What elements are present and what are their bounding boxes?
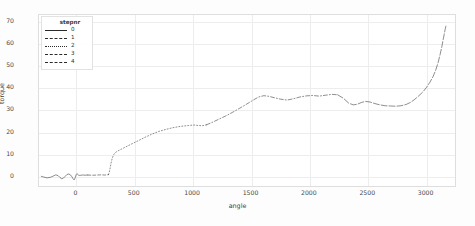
x-axis-label: angle [0,202,475,210]
legend-label: 4 [71,59,75,65]
y-axis-tick-label: 40 [0,84,14,90]
y-axis-tick-label: 50 [0,62,14,68]
legend-label: 2 [71,43,75,49]
y-axis-tick-label: 20 [0,129,14,135]
legend-entry-2[interactable]: 2 [45,42,89,50]
x-axis-tick-label: 500 [104,190,164,196]
x-axis-tick-label: 1500 [221,190,281,196]
y-axis-tick-label: 10 [0,151,14,157]
legend-entry-0[interactable]: 0 [45,26,89,34]
legend-swatch-dashdot [45,51,67,58]
x-axis-tick-label: 0 [45,190,105,196]
legend-label: 3 [71,51,75,57]
plot-area [38,14,456,187]
y-axis-tick-label: 30 [0,106,14,112]
legend[interactable]: stepnr 01234 [41,16,93,70]
legend-entry-1[interactable]: 1 [45,34,89,42]
y-axis-tick-label: 60 [0,40,14,46]
legend-label: 1 [71,35,75,41]
chart-figure: torque angle 010203040506070 05001000150… [0,0,475,226]
y-axis-tick-label: 70 [0,18,14,24]
legend-title: stepnr [51,19,89,25]
series-line-2 [108,125,206,175]
series-line-0 [41,174,87,180]
legend-swatch-solid [45,27,67,34]
x-axis-tick-label: 1000 [162,190,222,196]
legend-swatch-longdash [45,59,67,66]
series-line-1 [88,175,109,176]
data-curve [39,15,455,186]
series-line-4 [338,25,447,106]
legend-entry-4[interactable]: 4 [45,58,89,66]
x-axis-tick-label: 2500 [337,190,397,196]
legend-entries: 01234 [45,26,89,66]
legend-label: 0 [71,27,75,33]
series-line-3 [206,94,337,124]
x-axis-tick-label: 2000 [279,190,339,196]
legend-swatch-dotted [45,43,67,50]
y-axis-tick-label: 0 [0,173,14,179]
x-axis-tick-label: 3000 [396,190,456,196]
legend-entry-3[interactable]: 3 [45,50,89,58]
legend-swatch-dashed [45,35,67,42]
